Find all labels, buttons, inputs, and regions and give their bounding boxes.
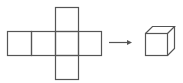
net-face-row-3 [56, 32, 79, 56]
net-face-bottom [56, 56, 79, 80]
net-face-row-2 [32, 32, 56, 56]
right-arrow-icon [109, 40, 132, 45]
net-face-row-1 [8, 32, 32, 56]
cube-net [8, 8, 102, 80]
cube-net-diagram [0, 0, 183, 83]
net-face-row-4 [79, 32, 102, 56]
net-face-top [56, 8, 79, 32]
cube-icon [146, 27, 175, 56]
